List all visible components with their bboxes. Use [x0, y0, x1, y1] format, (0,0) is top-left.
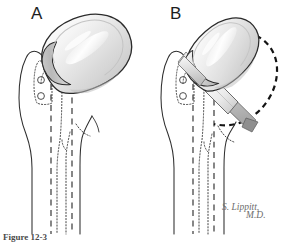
caption-strip: Figure 12-3: [0, 234, 284, 242]
panel-label-a: A: [31, 5, 42, 22]
humeral-head-prosthesis-a: [31, 2, 144, 106]
panel-label-b: B: [170, 5, 181, 22]
panel-a-graphic: [19, 2, 144, 234]
panel-b-graphic: [161, 5, 277, 234]
figure-caption: Figure 12-3: [3, 234, 47, 242]
figure-root: A B S. Lippitt, M.D. Figure 12-3: [0, 0, 284, 242]
artist-signature-line2: M.D.: [246, 211, 266, 221]
